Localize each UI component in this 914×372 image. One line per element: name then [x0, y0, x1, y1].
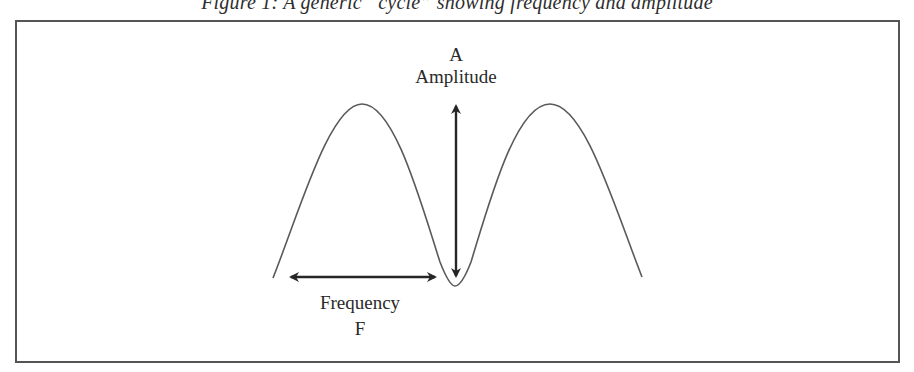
wave-curve — [273, 104, 642, 286]
amplitude-label: Amplitude — [406, 66, 506, 88]
frequency-label: Frequency — [300, 292, 420, 314]
amplitude-symbol-label: A — [426, 44, 486, 66]
frequency-symbol-label: F — [330, 318, 390, 340]
